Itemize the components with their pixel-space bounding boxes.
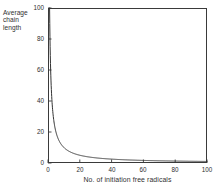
plot-area bbox=[48, 8, 207, 163]
y-axis-title: Average chain length bbox=[3, 9, 45, 31]
y-tick-label-20: 20 bbox=[28, 129, 44, 135]
x-axis-title: No. of initiation free radicals bbox=[48, 176, 207, 184]
x-tick-label-100: 100 bbox=[198, 167, 216, 173]
y-tick-label-100: 100 bbox=[28, 5, 44, 11]
data-series-line bbox=[50, 8, 207, 161]
y-axis-title-line-3: length bbox=[3, 24, 45, 31]
x-tick-label-80: 80 bbox=[166, 167, 184, 173]
y-tick-label-0: 0 bbox=[28, 160, 44, 166]
chart-figure: Average chain length 100 80 60 40 20 0 0… bbox=[0, 0, 216, 192]
y-tick-label-40: 40 bbox=[28, 98, 44, 104]
y-axis-title-line-2: chain bbox=[3, 16, 45, 23]
x-tick-label-0: 0 bbox=[39, 167, 57, 173]
y-tick-label-80: 80 bbox=[28, 36, 44, 42]
x-tick-label-20: 20 bbox=[71, 167, 89, 173]
y-tick-label-60: 60 bbox=[28, 67, 44, 73]
x-tick-label-40: 40 bbox=[103, 167, 121, 173]
x-tick-label-60: 60 bbox=[134, 167, 152, 173]
